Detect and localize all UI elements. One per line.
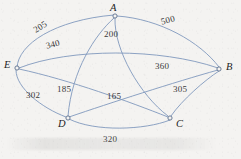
edge-weight-e-d: 302 <box>26 91 40 100</box>
edge-e-c <box>19 69 168 117</box>
edge-weight-a-d: 185 <box>57 85 71 94</box>
edge-weight-d-c: 320 <box>103 135 117 144</box>
edge-weight-d-b: 360 <box>155 62 169 71</box>
node-c[interactable] <box>168 116 172 120</box>
node-a[interactable] <box>113 14 117 18</box>
edge-e-a <box>17 15 114 68</box>
node-b[interactable] <box>217 67 221 71</box>
node-e[interactable] <box>15 66 19 70</box>
edge-weight-b-c: 305 <box>173 85 187 94</box>
edge-weight-a-c: 200 <box>104 30 118 39</box>
edge-weight-e-c: 165 <box>107 92 121 101</box>
node-label-e: E <box>4 60 11 71</box>
edge-e-b <box>19 53 218 68</box>
node-d[interactable] <box>66 116 70 120</box>
node-label-b: B <box>226 62 233 73</box>
edge-d-c <box>69 119 170 128</box>
node-label-a: A <box>110 3 117 14</box>
diagram-canvas: ABCDE205500340200360305185165302320 <box>0 0 241 159</box>
node-label-c: C <box>176 119 183 130</box>
node-label-d: D <box>58 119 66 130</box>
edge-d-b <box>69 70 218 117</box>
